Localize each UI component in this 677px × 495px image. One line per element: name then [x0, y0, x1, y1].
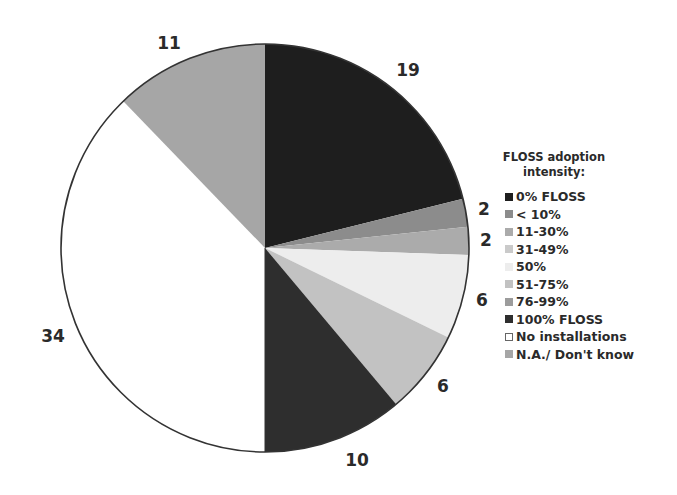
legend-label: 76-99%: [516, 294, 569, 309]
legend-label: 11-30%: [516, 224, 569, 239]
legend-item: 11-30%: [505, 223, 675, 241]
legend-swatch: [505, 245, 513, 253]
legend-swatch: [505, 263, 513, 271]
legend-label: < 10%: [516, 207, 561, 222]
data-label: 6: [437, 376, 449, 396]
legend-title-line2: intensity:: [495, 165, 613, 180]
legend-label: 31-49%: [516, 242, 569, 257]
data-label: 19: [396, 60, 420, 80]
legend-item: 0% FLOSS: [505, 188, 675, 206]
data-label: 2: [478, 199, 490, 219]
legend-swatch: [505, 193, 513, 201]
legend-swatch: [505, 298, 513, 306]
legend-item: 100% FLOSS: [505, 311, 675, 329]
legend-label: 50%: [516, 259, 546, 274]
legend-swatch: [505, 210, 513, 218]
legend-item: < 10%: [505, 206, 675, 224]
data-label: 10: [345, 450, 369, 470]
legend-label: 51-75%: [516, 277, 569, 292]
legend-item: 76-99%: [505, 293, 675, 311]
legend-item: 50%: [505, 258, 675, 276]
legend-list: 0% FLOSS< 10%11-30%31-49%50%51-75%76-99%…: [505, 188, 675, 363]
legend-swatch: [505, 350, 513, 358]
data-label: 34: [41, 326, 65, 346]
legend-title: FLOSS adoption intensity:: [495, 150, 613, 180]
data-label: 11: [157, 33, 181, 53]
legend-item: 51-75%: [505, 276, 675, 294]
legend-label: 100% FLOSS: [516, 312, 603, 327]
legend-item: No installations: [505, 328, 675, 346]
data-label: 6: [476, 290, 488, 310]
legend-label: No installations: [516, 329, 627, 344]
legend-item: 31-49%: [505, 241, 675, 259]
data-label: 2: [480, 230, 492, 250]
legend: FLOSS adoption intensity: 0% FLOSS< 10%1…: [505, 150, 675, 363]
legend-title-line1: FLOSS adoption: [495, 150, 613, 165]
legend-swatch: [505, 333, 513, 341]
legend-swatch: [505, 228, 513, 236]
legend-label: 0% FLOSS: [516, 189, 586, 204]
legend-item: N.A./ Don't know: [505, 346, 675, 364]
legend-label: N.A./ Don't know: [516, 347, 634, 362]
legend-swatch: [505, 280, 513, 288]
legend-swatch: [505, 315, 513, 323]
